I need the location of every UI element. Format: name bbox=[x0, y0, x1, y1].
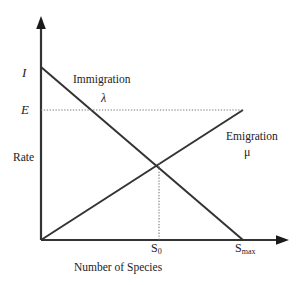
x-tick-label-smax: Smax bbox=[235, 242, 255, 254]
emigration-curve bbox=[41, 110, 243, 240]
x-axis-label: Number of Species bbox=[74, 262, 162, 274]
immigration-curve bbox=[41, 67, 243, 240]
y-tick-label-I: I bbox=[22, 66, 26, 79]
immigration-curve-label: Immigration bbox=[73, 74, 131, 86]
x-tick-label-s0: S0 bbox=[151, 242, 162, 254]
lambda-symbol-label: λ bbox=[101, 92, 106, 104]
x-axis-arrowhead bbox=[276, 235, 289, 244]
y-axis-label: Rate bbox=[13, 152, 34, 164]
x-tick-s0-base: S bbox=[151, 241, 158, 255]
x-tick-smax-base: S bbox=[235, 241, 242, 255]
species-equilibrium-figure: I E Rate Immigration λ Emigration μ S0 S… bbox=[0, 0, 296, 285]
mu-symbol-label: μ bbox=[244, 146, 250, 158]
emigration-curve-label: Emigration bbox=[226, 131, 278, 143]
y-tick-label-E: E bbox=[21, 103, 29, 116]
x-tick-smax-subscript: max bbox=[242, 247, 256, 256]
x-tick-s0-subscript: 0 bbox=[158, 247, 162, 256]
y-axis-arrowhead bbox=[36, 16, 46, 29]
